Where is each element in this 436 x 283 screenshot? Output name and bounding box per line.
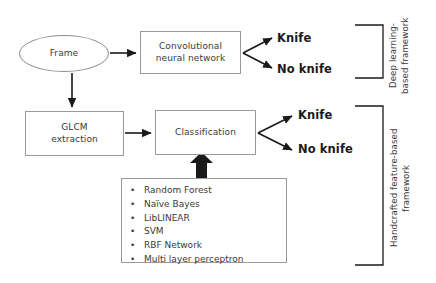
- node-frame: Frame: [19, 35, 109, 72]
- node-classification: Classification: [155, 110, 256, 155]
- arrow-cnn-to-knife: [243, 38, 272, 53]
- bracket-deep-learning: [355, 25, 383, 78]
- arrow-cnn-to-no-knife: [243, 53, 272, 68]
- bracket-handcrafted: [355, 106, 383, 265]
- outcome-handcrafted-no-knife: No knife: [298, 142, 353, 156]
- node-convolutional-neural-network: Convolutional neural network: [140, 31, 241, 74]
- framework-label-handcrafted: Handcrafted feature-based framework: [389, 104, 415, 272]
- list-item: • Multi layer perceptron: [130, 253, 280, 267]
- outcome-deep-no-knife: No knife: [277, 62, 332, 76]
- node-glcm-label: GLCM extraction: [51, 122, 98, 145]
- node-frame-label: Frame: [50, 48, 79, 59]
- node-cnn-label: Convolutional neural network: [156, 41, 225, 64]
- list-item: • Random Forest: [130, 184, 280, 198]
- outcome-deep-knife: Knife: [277, 31, 311, 45]
- list-item: • RBF Network: [130, 239, 280, 253]
- arrow-classification-to-knife: [258, 116, 292, 133]
- classifier-label: Multi layer perceptron: [144, 253, 244, 267]
- flow-diagram: Frame Convolutional neural network GLCM …: [0, 0, 436, 283]
- classifier-list: • Random Forest • Naïve Bayes • LibLINEA…: [130, 184, 280, 267]
- block-arrow-list-to-classification: [190, 152, 213, 178]
- bullet-icon: •: [130, 184, 144, 198]
- classifier-list-box: • Random Forest • Naïve Bayes • LibLINEA…: [121, 178, 287, 263]
- bullet-icon: •: [130, 225, 144, 239]
- bullet-icon: •: [130, 253, 144, 267]
- list-item: • LibLINEAR: [130, 212, 280, 226]
- arrow-classification-to-no-knife: [258, 133, 292, 150]
- framework-label-deep-learning: Deep learning- based framework: [388, 8, 414, 104]
- classifier-label: RBF Network: [144, 239, 202, 253]
- node-glcm-extraction: GLCM extraction: [25, 111, 124, 156]
- classifier-label: Random Forest: [144, 184, 212, 198]
- list-item: • Naïve Bayes: [130, 198, 280, 212]
- bullet-icon: •: [130, 239, 144, 253]
- bullet-icon: •: [130, 198, 144, 212]
- list-item: • SVM: [130, 225, 280, 239]
- bullet-icon: •: [130, 212, 144, 226]
- outcome-handcrafted-knife: Knife: [298, 108, 332, 122]
- node-classification-label: Classification: [175, 127, 236, 138]
- classifier-label: Naïve Bayes: [144, 198, 200, 212]
- classifier-label: LibLINEAR: [144, 212, 190, 226]
- classifier-label: SVM: [144, 225, 164, 239]
